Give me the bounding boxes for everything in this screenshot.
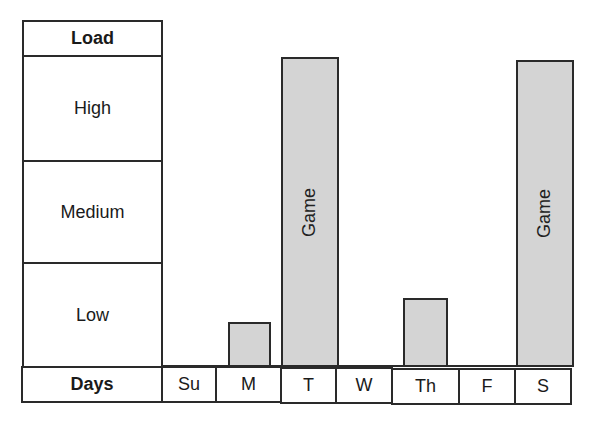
y-level-high-label: High — [74, 98, 111, 119]
y-axis-header: Load — [22, 20, 163, 57]
bar-monday — [228, 322, 271, 367]
y-level-low: Low — [22, 262, 163, 368]
bar-tuesday: Game — [281, 57, 339, 367]
day-label-s: S — [537, 376, 549, 397]
day-label-th: Th — [415, 376, 436, 397]
bar-thursday — [403, 298, 448, 367]
y-level-high: High — [22, 55, 163, 162]
y-level-medium: Medium — [22, 160, 163, 264]
day-label-w: W — [356, 375, 373, 396]
day-label-m: M — [241, 374, 256, 395]
day-cell-su: Su — [161, 366, 217, 403]
bar-saturday-label: Game — [535, 189, 556, 238]
day-cell-f: F — [458, 368, 516, 405]
day-label-t: T — [303, 375, 314, 396]
day-cell-m: M — [215, 366, 282, 403]
day-cell-t: T — [280, 367, 337, 404]
day-label-f: F — [482, 376, 493, 397]
day-cell-th: Th — [391, 368, 460, 405]
x-axis-title: Days — [70, 374, 113, 395]
y-level-low-label: Low — [76, 305, 109, 326]
x-axis-header: Days — [21, 366, 163, 403]
day-cell-s: S — [514, 368, 572, 405]
y-level-medium-label: Medium — [60, 202, 124, 223]
bar-tuesday-label: Game — [300, 187, 321, 236]
bar-saturday: Game — [516, 60, 574, 367]
day-cell-w: W — [335, 367, 393, 404]
y-axis-title: Load — [71, 28, 114, 49]
day-label-su: Su — [178, 374, 200, 395]
